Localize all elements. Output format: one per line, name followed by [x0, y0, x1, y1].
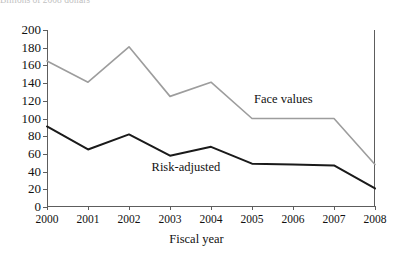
x-tick-label: 2003 [148, 213, 192, 225]
x-tick-label: 2001 [66, 213, 110, 225]
x-tick-label: 2007 [312, 213, 356, 225]
series-annotation: Risk-adjusted [152, 160, 221, 175]
y-tick-label: 100 [22, 112, 42, 125]
x-tick-label: 2000 [25, 213, 69, 225]
x-axis-title: Fiscal year [0, 232, 393, 247]
x-tick-label: 2005 [230, 213, 274, 225]
y-tick-label: 20 [28, 182, 41, 195]
x-tick-label: 2006 [271, 213, 315, 225]
x-tick-label: 2008 [353, 213, 393, 225]
y-tick-label: 180 [22, 41, 42, 54]
y-tick-label: 80 [28, 129, 41, 142]
series-annotation: Face values [254, 92, 313, 107]
series-lines [47, 30, 375, 207]
top-caption: Billions of 2008 dollars [0, 0, 200, 6]
plot-area: Face valuesRisk-adjusted [47, 30, 375, 207]
x-tick-label: 2004 [189, 213, 233, 225]
y-tick-label: 200 [22, 23, 42, 36]
y-tick-label: 140 [22, 76, 42, 89]
y-tick-label: 120 [22, 94, 42, 107]
y-tick-label: 60 [28, 147, 41, 160]
y-tick-label: 160 [22, 58, 42, 71]
x-tick-label: 2002 [107, 213, 151, 225]
y-tick-label: 40 [28, 165, 41, 178]
x-tick [375, 206, 376, 210]
chart-figure: Billions of 2008 dollars Face valuesRisk… [0, 0, 393, 253]
y-tick-label: 0 [35, 200, 42, 213]
series-line [47, 126, 375, 188]
